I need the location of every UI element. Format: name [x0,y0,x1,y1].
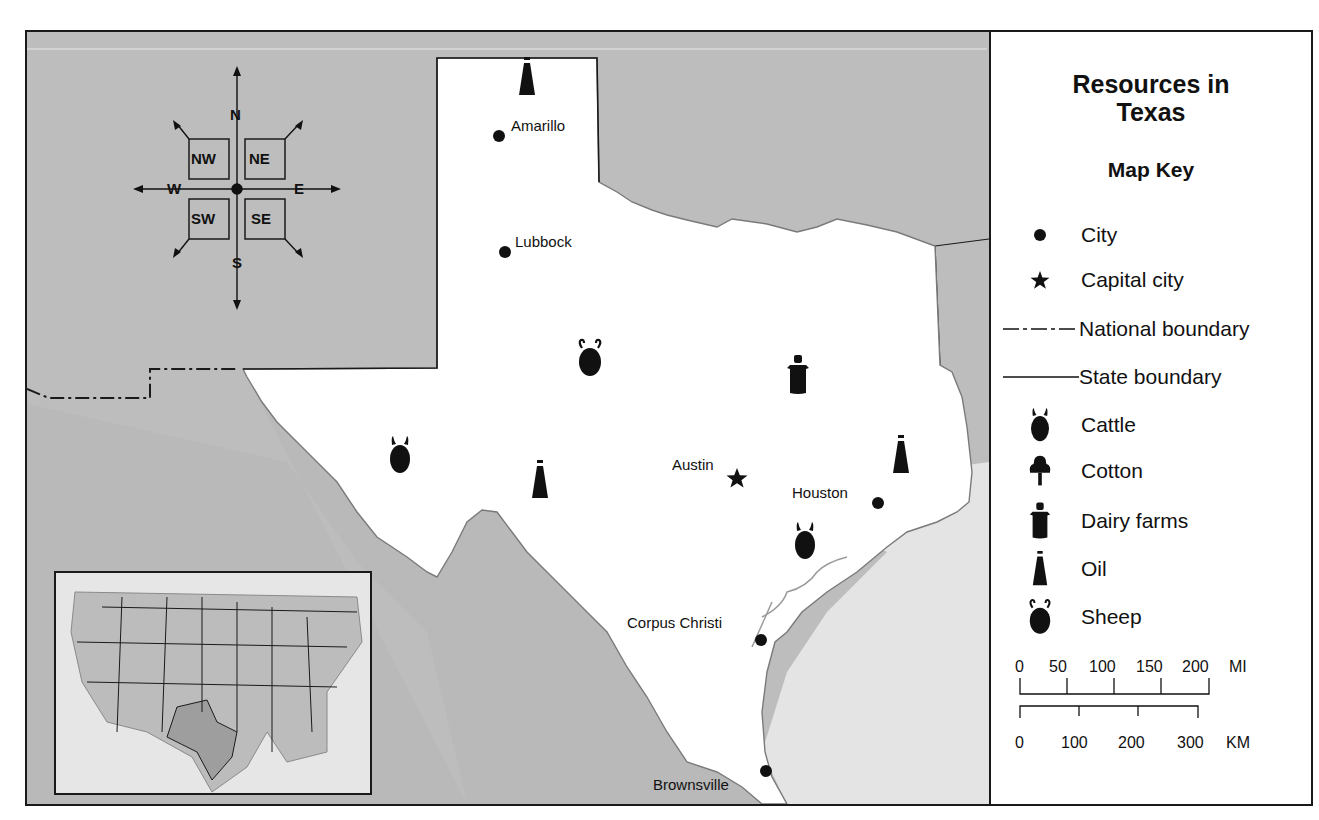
city-dot-corpus-christi [755,634,767,646]
map-key-heading: Map Key [991,158,1311,182]
national-boundary-line-icon [1003,327,1079,331]
compass-se-label: SE [251,210,271,227]
map-title-line1: Resources in [991,70,1311,98]
map-title: Resources in Texas [991,70,1311,126]
scale-bar-lines [991,672,1311,732]
compass-ne-label: NE [249,150,270,167]
city-dot-houston [872,497,884,509]
city-label-corpus-christi: Corpus Christi [627,614,722,631]
city-label-lubbock: Lubbock [515,233,572,250]
map-canvas: N S W E NW NE SW SE Amarillo Lubbock Aus… [27,32,989,804]
oil-icon [1005,554,1075,584]
cattle-icon [1005,410,1075,440]
city-dot-lubbock [499,246,511,258]
map-title-line2: Texas [991,98,1311,126]
map-frame: N S W E NW NE SW SE Amarillo Lubbock Aus… [25,30,1313,806]
compass-e-label: E [294,180,304,197]
texas-map [27,32,989,804]
compass-n-label: N [230,106,241,123]
city-dot-icon [1005,220,1075,250]
city-label-austin: Austin [672,456,714,473]
city-label-houston: Houston [792,484,848,501]
map-legend: Resources in Texas Map Key City Capital … [989,32,1311,804]
compass-w-label: W [167,180,181,197]
compass-s-label: S [232,254,242,271]
dairy-farms-icon [1005,506,1075,536]
city-dot-amarillo [493,130,505,142]
city-dot-brownsville [760,765,772,777]
state-boundary-line-icon [1003,375,1079,379]
city-label-amarillo: Amarillo [511,117,565,134]
cotton-icon [1005,456,1075,486]
inset-us-map [55,572,371,794]
star-icon [1005,265,1075,295]
city-label-brownsville: Brownsville [653,776,729,793]
compass-nw-label: NW [191,150,216,167]
compass-sw-label: SW [191,210,215,227]
sheep-icon [1005,602,1075,632]
